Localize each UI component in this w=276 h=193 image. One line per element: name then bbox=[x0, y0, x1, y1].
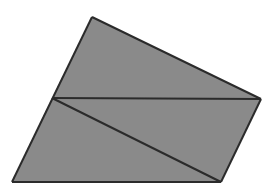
geometric-figure-canvas bbox=[0, 0, 276, 193]
internal-horizontal-chord bbox=[52, 98, 261, 99]
